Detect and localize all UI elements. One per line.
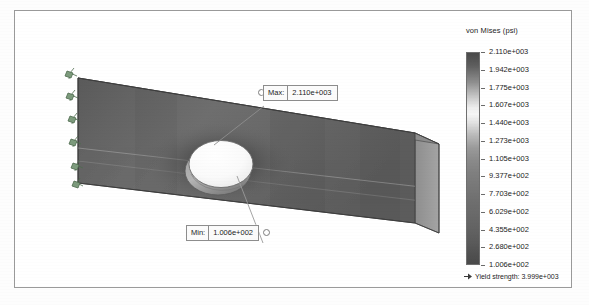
legend-title: von Mises (psi) [466, 26, 518, 35]
legend-tick [481, 247, 485, 248]
legend-tick-label: 6.029e+002 [489, 207, 529, 216]
legend-tick-label: 9.377e+002 [489, 171, 529, 180]
model-viewport[interactable] [15, 11, 455, 287]
fixture-restraint-icon [66, 90, 78, 101]
legend-tick [481, 230, 485, 231]
fea-result-screenshot: Max: 2.110e+003 Min: 1.006e+002 von Mise… [0, 0, 589, 305]
yield-arrow-icon [464, 273, 473, 280]
legend-tick [481, 212, 485, 213]
legend-tick [481, 123, 485, 124]
legend-colorbar[interactable] [466, 52, 480, 265]
yield-strength-marker: Yield strength: 3.999e+003 [464, 273, 559, 280]
legend-tick [481, 105, 485, 106]
yield-strength-label: Yield strength: 3.999e+003 [475, 273, 559, 280]
legend-tick-label: 1.273e+003 [489, 136, 529, 145]
model-3d-render[interactable] [15, 11, 455, 287]
legend-tick-label: 2.680e+002 [489, 242, 529, 251]
legend-tick [481, 265, 485, 266]
legend-tick-label: 1.942e+003 [489, 65, 529, 74]
legend-tick [481, 159, 485, 160]
legend-tick-label: 2.110e+003 [489, 47, 528, 56]
max-callout-value: 2.110e+003 [288, 86, 336, 100]
min-callout-label: Min: [187, 226, 209, 240]
max-callout[interactable]: Max: 2.110e+003 [263, 85, 338, 101]
legend-tick [481, 176, 485, 177]
legend-tick-label: 1.607e+003 [489, 100, 529, 109]
legend-tick [481, 194, 485, 195]
legend-tick [481, 141, 485, 142]
fixture-restraint-icon [65, 68, 77, 79]
legend-tick [481, 52, 485, 53]
min-anchor-dot [263, 229, 270, 236]
legend-tick-label: 1.440e+003 [489, 118, 529, 127]
legend-tick-label: 1.105e+003 [489, 154, 529, 163]
min-callout-value: 1.006e+002 [209, 226, 258, 240]
legend-tick-label: 7.703e+002 [489, 189, 529, 198]
legend-tick [481, 70, 485, 71]
legend-tick [481, 88, 485, 89]
legend-tick-label: 1.006e+002 [489, 260, 529, 269]
legend-tick-label: 1.775e+003 [489, 83, 529, 92]
stress-legend: von Mises (psi) 2.110e+0031.942e+0031.77… [462, 22, 567, 282]
legend-tick-label: 4.355e+002 [489, 225, 529, 234]
min-callout[interactable]: Min: 1.006e+002 [186, 225, 259, 241]
max-callout-label: Max: [264, 86, 288, 100]
plate-end-face [415, 133, 439, 233]
